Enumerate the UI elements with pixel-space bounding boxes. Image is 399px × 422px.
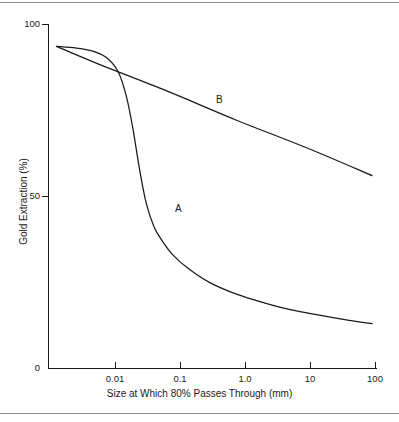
x-tick-label-0-01: 0.01 <box>106 374 125 384</box>
series-annotation-b: B <box>216 95 223 105</box>
x-tick-label-100: 100 <box>367 374 383 384</box>
y-tick-label-100: 100 <box>8 19 40 29</box>
series-group <box>56 46 372 323</box>
chart-plot-area <box>0 0 399 422</box>
x-axis-title: Size at Which 80% Passes Through (mm) <box>0 388 399 399</box>
x-tick-label-10: 10 <box>305 374 316 384</box>
y-axis-title: Gold Extraction (%) <box>18 132 29 272</box>
x-tick-label-1-0: 1.0 <box>238 374 251 384</box>
figure-root: 100 50 0 0.01 0.1 1.0 10 100 A B Size at… <box>0 0 399 422</box>
y-tick-label-0: 0 <box>8 363 40 373</box>
series-line-b <box>56 46 372 175</box>
series-annotation-a: A <box>175 204 182 214</box>
series-line-a <box>56 46 372 323</box>
x-tick-label-0-1: 0.1 <box>173 374 186 384</box>
